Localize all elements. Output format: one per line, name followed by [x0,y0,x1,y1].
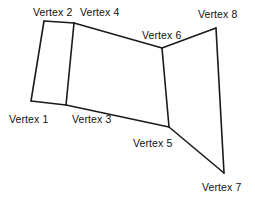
edge-3-1 [31,101,66,105]
diagram-canvas [0,0,255,203]
vertex-label-4: Vertex 4 [80,7,119,18]
vertex-label-1: Vertex 1 [9,114,48,125]
edge-7-5 [169,127,224,173]
vertex-label-6: Vertex 6 [142,30,181,41]
edge-8-7 [216,28,224,173]
vertex-label-5: Vertex 5 [133,138,172,149]
edge-6-5 [162,48,169,127]
edge-2-4 [44,21,74,23]
edge-group [31,21,224,173]
vertex-diagram: Vertex 1Vertex 2Vertex 3Vertex 4Vertex 5… [0,0,255,203]
vertex-label-8: Vertex 8 [198,9,237,20]
edge-1-2 [31,21,44,101]
edge-4-3 [66,23,74,105]
vertex-label-3: Vertex 3 [72,114,111,125]
vertex-label-2: Vertex 2 [33,7,72,18]
vertex-label-7: Vertex 7 [202,182,241,193]
